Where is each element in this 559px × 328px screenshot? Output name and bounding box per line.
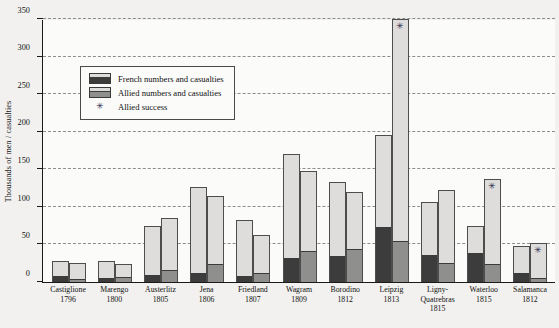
bar-french[interactable]: [52, 261, 69, 282]
legend: French numbers and casualtiesAllied numb…: [80, 66, 235, 120]
x-axis-label-year: 1800: [91, 295, 137, 305]
legend-item-label: Allied success: [118, 102, 167, 112]
x-axis-label-name: Ligny-​Quatrebras: [415, 285, 461, 304]
gridline: [43, 18, 555, 19]
bar-allied[interactable]: [438, 190, 455, 282]
y-axis-tick-label: 0: [26, 270, 30, 278]
x-axis-label: Castiglione1796: [45, 285, 91, 314]
y-axis-tick-label: 300: [18, 44, 30, 52]
x-axis-label: Austerlitz1805: [137, 285, 183, 314]
x-axis-label: Leipzig1813: [368, 285, 414, 314]
legend-item[interactable]: ✳Allied success: [87, 100, 228, 113]
bar-group: ✳: [507, 20, 553, 282]
legend-swatch-icon: [89, 87, 111, 98]
y-axis-tick-label: 100: [18, 194, 30, 202]
x-axis-label: Borodino1812: [322, 285, 368, 314]
x-axis-label-year: 1815: [461, 295, 507, 305]
bar-french[interactable]: [329, 182, 346, 282]
bar-allied[interactable]: [161, 218, 178, 282]
chart-root: Thousands of men / casualties The Butche…: [0, 0, 559, 328]
bar-allied[interactable]: [69, 263, 86, 282]
legend-item-label: Allied numbers and casualties: [118, 88, 221, 98]
x-axis-label-name: Leipzig: [368, 285, 414, 295]
plot-area: 050100150200250300350 ✳✳✳: [42, 20, 555, 283]
x-axis-label-year: 1813: [368, 295, 414, 305]
x-axis-label-year: 1796: [45, 295, 91, 305]
bar-loss-segment: [393, 241, 408, 282]
bar-french[interactable]: [144, 226, 161, 282]
bar-loss-segment: [422, 255, 437, 282]
allied-success-marker-icon: ✳: [485, 182, 500, 191]
x-axis-label: Wagram1809: [276, 285, 322, 314]
bar-french[interactable]: [421, 202, 438, 282]
allied-success-marker-icon: ✳: [89, 102, 111, 111]
bar-loss-segment: [485, 264, 500, 282]
x-axis-label-name: Castiglione: [45, 285, 91, 295]
y-axis-tick: 350: [37, 18, 43, 19]
bar-french[interactable]: [283, 154, 300, 282]
bar-french[interactable]: [513, 246, 530, 282]
bar-french[interactable]: [190, 187, 207, 282]
bar-loss-segment: [208, 264, 223, 282]
bar-loss-segment: [145, 275, 160, 282]
allied-success-marker-icon: ✳: [531, 246, 546, 255]
x-axis-labels: Castiglione1796Marengo1800Austerlitz1805…: [42, 285, 555, 314]
x-axis-label-year: 1809: [276, 295, 322, 305]
bar-allied[interactable]: ✳: [530, 243, 547, 282]
x-axis-label-year: 1815: [415, 304, 461, 314]
bar-group: [138, 20, 184, 282]
allied-success-marker-icon: ✳: [393, 22, 408, 31]
bar-loss-segment: [468, 253, 483, 282]
bar-loss-segment: [254, 273, 269, 282]
bar-allied[interactable]: [207, 196, 224, 282]
bar-group: [276, 20, 322, 282]
bar-loss-segment: [347, 249, 362, 282]
y-axis-tick-label: 250: [18, 82, 30, 90]
x-axis-label: Waterloo1815: [461, 285, 507, 314]
bar-loss-segment: [70, 279, 85, 282]
bar-loss-segment: [162, 270, 177, 282]
x-axis-label-year: 1806: [184, 295, 230, 305]
bar-loss-segment: [330, 256, 345, 282]
x-axis-label: Marengo1800: [91, 285, 137, 314]
x-axis-label-year: 1807: [230, 295, 276, 305]
bar-allied[interactable]: [300, 171, 317, 282]
bar-allied[interactable]: ✳: [392, 19, 409, 282]
bar-loss-segment: [284, 258, 299, 282]
y-axis-title: Thousands of men / casualties: [3, 20, 15, 283]
bar-allied[interactable]: ✳: [484, 179, 501, 282]
legend-item[interactable]: Allied numbers and casualties: [87, 86, 228, 99]
legend-item-label: French numbers and casualties: [118, 74, 224, 84]
x-axis-label-name: Salamanca: [507, 285, 553, 295]
x-axis-label-name: Waterloo: [461, 285, 507, 295]
bar-series-container: ✳✳✳: [43, 20, 555, 282]
bar-french[interactable]: [467, 226, 484, 282]
bar-french[interactable]: [236, 220, 253, 282]
bar-loss-segment: [439, 263, 454, 282]
bar-group: ✳: [369, 20, 415, 282]
x-axis-label-year: 1805: [137, 295, 183, 305]
legend-item[interactable]: French numbers and casualties: [87, 72, 228, 85]
x-axis-label: Jena1806: [184, 285, 230, 314]
y-axis-title-label: Thousands of men / casualties: [5, 101, 14, 203]
bar-allied[interactable]: [253, 235, 270, 282]
bar-group: [92, 20, 138, 282]
legend-swatch-icon: [89, 73, 111, 84]
x-axis-label: Friedland1807: [230, 285, 276, 314]
x-axis-label-year: 1812: [322, 295, 368, 305]
bar-loss-segment: [376, 227, 391, 282]
bar-french[interactable]: [98, 261, 115, 282]
x-axis-label: Ligny-​Quatrebras1815: [415, 285, 461, 314]
bar-group: ✳: [461, 20, 507, 282]
bar-allied[interactable]: [115, 264, 132, 282]
bar-loss-segment: [116, 277, 131, 282]
bar-loss-segment: [301, 251, 316, 282]
x-axis-label-name: Marengo: [91, 285, 137, 295]
bar-loss-segment: [99, 278, 114, 283]
y-axis-tick-label: 350: [18, 7, 30, 15]
bar-french[interactable]: [375, 135, 392, 282]
x-axis-label-name: Jena: [184, 285, 230, 295]
x-axis-label-year: 1812: [507, 295, 553, 305]
bar-group: [46, 20, 92, 282]
bar-allied[interactable]: [346, 192, 363, 282]
